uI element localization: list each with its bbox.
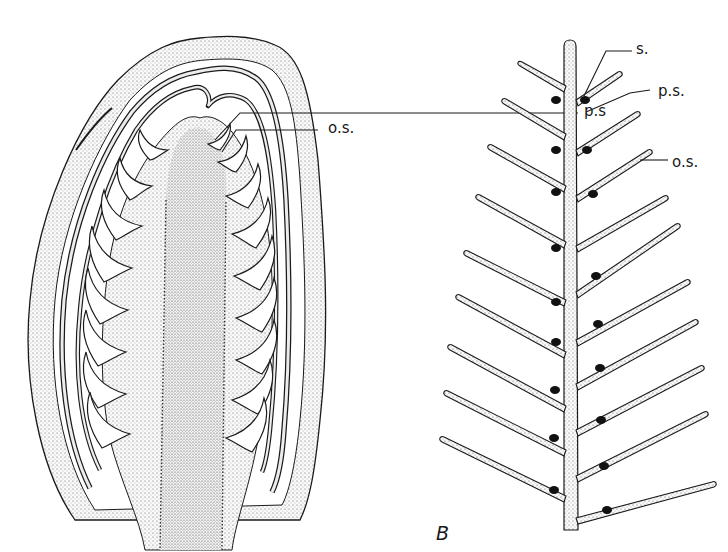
- right-branches: [576, 72, 716, 524]
- label-ps-b: p.s.: [658, 84, 685, 99]
- main-stem: [564, 40, 578, 530]
- left-branches: [440, 61, 566, 502]
- label-os-b: o.s.: [672, 155, 698, 170]
- botanical-figure: p.s o.s. s. p.s. o.s. B: [0, 0, 728, 552]
- label-os-a: o.s.: [328, 121, 354, 136]
- label-ps-a: p.s: [584, 104, 606, 119]
- label-s-b: s.: [636, 42, 649, 57]
- figure-drawing: [0, 0, 728, 552]
- panel-letter-b: B: [436, 522, 449, 544]
- panel-a-cone-section: [28, 36, 578, 550]
